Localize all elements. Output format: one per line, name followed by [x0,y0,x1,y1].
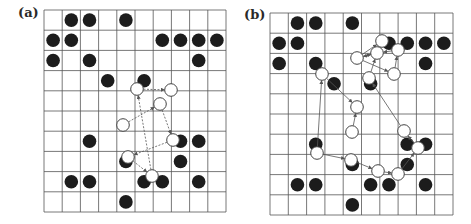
open-circle [351,52,364,65]
filled-dot [327,77,341,91]
open-circle [311,147,324,160]
filled-dot [174,34,188,48]
open-circle [146,170,159,183]
open-circle [167,134,180,147]
open-circle [392,168,405,181]
filled-dot [272,37,286,51]
transition-arrow [383,51,391,52]
filled-dot [192,34,206,48]
transition-arrow [138,95,151,169]
panel-a-grid [44,10,226,212]
open-circle [346,126,359,139]
open-circle [392,44,405,57]
grid-diagram [0,0,471,224]
open-circle [363,72,376,85]
open-circle [388,68,401,81]
filled-dot [291,16,305,30]
filled-dot [364,178,378,192]
filled-dot [291,37,305,51]
transition-arrow [143,89,164,90]
filled-dot [346,198,360,212]
filled-dot [192,54,206,68]
transition-arrow [134,142,167,154]
filled-dot [210,34,224,48]
open-circle [371,47,384,60]
filled-dot [291,178,305,192]
filled-dot [83,13,97,27]
filled-dot [419,178,433,192]
filled-dot [83,135,97,149]
open-circle [117,119,130,132]
filled-dot [119,13,133,27]
filled-dot [382,178,396,192]
transition-arrow [317,80,321,146]
filled-dot [46,34,60,48]
filled-dot [272,57,286,71]
filled-dot [83,175,97,189]
filled-dot [346,16,360,30]
filled-dot [309,178,323,192]
filled-dot [65,175,79,189]
filled-dot [101,74,115,88]
transition-arrow [395,56,397,67]
filled-dot [419,57,433,71]
filled-dot [65,13,79,27]
filled-dot [65,34,79,48]
transition-arrow [384,172,391,173]
transition-arrow [162,110,171,134]
filled-dot [174,155,188,169]
filled-dot [309,16,323,30]
transition-arrow [353,113,355,125]
transition-arrow [323,154,344,158]
transition-arrow [363,61,388,72]
open-circle [345,154,358,167]
filled-dot [192,175,206,189]
open-circle [351,101,364,114]
transition-arrow [129,107,155,122]
open-circle [316,68,329,81]
panel-b-grid [270,13,453,215]
open-circle [131,83,144,96]
open-circle [376,35,389,48]
open-circle [165,84,178,97]
filled-dot [192,135,206,149]
filled-dot [119,195,133,209]
transition-arrow [363,55,370,57]
filled-dot [437,37,451,51]
open-circle [122,151,135,164]
filled-dot [156,34,170,48]
open-circle [412,142,425,155]
filled-dot [46,54,60,68]
transition-arrow [357,162,372,168]
open-circle [398,125,411,138]
filled-dot [83,54,97,68]
transition-arrow [373,83,401,125]
open-circle [372,165,385,178]
filled-dot [419,37,433,51]
open-circle [154,98,167,111]
